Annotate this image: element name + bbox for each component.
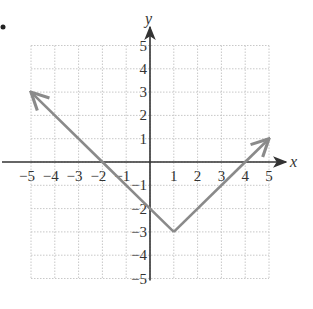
y-tick-label: −5 xyxy=(131,271,147,287)
chart: −5−4−3−2−11234554321−1−2−3−4−5 x y xyxy=(0,0,313,309)
y-tick-label: 5 xyxy=(140,38,148,54)
y-tick-label: −4 xyxy=(131,247,147,263)
x-tick-label: −2 xyxy=(90,168,106,184)
y-axis-label: y xyxy=(143,10,153,28)
x-tick-label: −5 xyxy=(19,168,35,184)
y-tick-label: 1 xyxy=(140,131,148,147)
y-tick-label: 4 xyxy=(140,61,148,77)
x-tick-label: 5 xyxy=(265,168,273,184)
y-tick-label: 3 xyxy=(140,84,148,100)
x-tick-label: 2 xyxy=(194,168,202,184)
y-tick-label: 2 xyxy=(140,107,148,123)
x-tick-label: −3 xyxy=(67,168,83,184)
x-tick-label: 4 xyxy=(241,168,249,184)
x-axis-label: x xyxy=(289,153,297,170)
x-tick-label: 1 xyxy=(170,168,178,184)
y-tick-label: −3 xyxy=(131,224,147,240)
bullet-point xyxy=(1,25,6,30)
x-tick-label: −4 xyxy=(43,168,59,184)
